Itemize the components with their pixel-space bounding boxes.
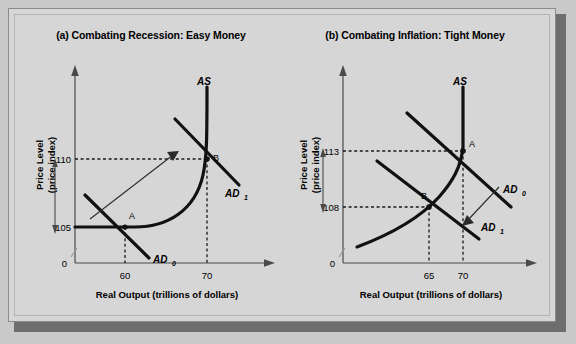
panel-b-y-axis-title-line2: (price index): [310, 137, 321, 194]
panel-a-point-a-marker: [122, 224, 127, 229]
panel-b-axis-break-mark: [339, 248, 345, 257]
panel-a-ad0-label: AD: [152, 254, 167, 265]
panel-a-point-a-label: A: [129, 211, 135, 221]
figure-inner-border: (a) Combating Recession: Easy Money Pric…: [14, 14, 550, 316]
panel-b-y-axis-title-line1: Price Level: [298, 140, 309, 190]
panel-b-shift-arrow: [467, 187, 499, 221]
panel-combating-inflation: (b) Combating Inflation: Tight Money Pri…: [281, 15, 549, 317]
panel-b-as-label: AS: [452, 76, 467, 87]
panel-a-ad1-label: AD: [224, 188, 239, 199]
panel-b-ad1-label: AD: [480, 222, 495, 233]
panel-b-point-b-marker: [426, 204, 432, 210]
panel-a-plot: Price Level (price index) 0 110 105: [17, 15, 285, 317]
panel-a-y-axis-arrowhead: [71, 65, 79, 76]
panel-b-y-axis-arrowhead: [339, 65, 347, 76]
panel-a-shift-arrow: [90, 155, 173, 219]
panel-a-x-tick-70: 70: [202, 270, 213, 281]
panel-b-as-curve: [357, 87, 463, 247]
panel-b-y-tick-113: 113: [324, 146, 339, 157]
panel-a-axis-break-mark: [71, 248, 77, 257]
panel-b-x-axis-title: Real Output (trillions of dollars): [360, 289, 503, 300]
panel-a-as-label: AS: [196, 76, 211, 87]
panel-b-ad0-subscript: 0: [522, 190, 526, 197]
panel-a-y-axis-title-line1: Price Level: [34, 140, 45, 190]
panel-b-ad0-label: AD: [502, 184, 517, 195]
panel-b-ad1-curve: [377, 161, 479, 239]
figure-frame: (a) Combating Recession: Easy Money Pric…: [8, 8, 556, 322]
panel-b-origin-label: 0: [330, 258, 335, 269]
panel-b-x-tick-70: 70: [458, 270, 469, 281]
panel-a-y-tick-105: 105: [55, 222, 71, 233]
panel-b-plot: Price Level (price index) 0 113 108: [281, 15, 549, 317]
panel-b-shift-arrowhead: [462, 215, 474, 226]
panel-a-point-b-label: B: [213, 153, 219, 163]
panel-b-y-tick-108: 108: [323, 202, 339, 213]
panel-b-ad1-subscript: 1: [500, 228, 504, 235]
panel-a-point-b-marker: [204, 156, 210, 162]
panel-a-ad1-subscript: 1: [244, 194, 248, 201]
panel-a-x-tick-60: 60: [120, 270, 131, 281]
panel-a-origin-label: 0: [62, 258, 67, 269]
panel-a-x-axis-title: Real Output (trillions of dollars): [96, 289, 239, 300]
panel-b-x-axis-arrowhead: [526, 259, 537, 267]
panel-combating-recession: (a) Combating Recession: Easy Money Pric…: [17, 15, 285, 317]
panel-b-point-a-marker: [460, 148, 466, 154]
panel-b-point-b-label: B: [421, 191, 427, 201]
panel-a-x-axis-arrowhead: [264, 259, 275, 267]
figure-root: (a) Combating Recession: Easy Money Pric…: [0, 0, 576, 344]
panel-b-x-tick-65: 65: [424, 270, 435, 281]
panel-a-ad0-subscript: 0: [172, 260, 176, 267]
panel-b-point-a-label: A: [469, 139, 475, 149]
panel-a-y-tick-110: 110: [56, 154, 71, 165]
